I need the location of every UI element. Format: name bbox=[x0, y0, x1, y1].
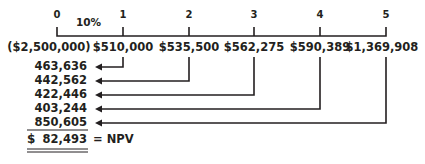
arrow-left-icon bbox=[95, 78, 102, 85]
period-label-5: 5 bbox=[383, 9, 390, 20]
present-value-4: 403,244 bbox=[35, 101, 87, 115]
arrow-left-icon bbox=[95, 106, 102, 113]
arrowheads bbox=[95, 64, 102, 127]
cash-flow-1: $510,000 bbox=[93, 40, 153, 54]
present-value-5: 850,605 bbox=[35, 115, 87, 129]
arrow-left-icon bbox=[95, 120, 102, 127]
cash-flow-5: $1,369,908 bbox=[346, 40, 419, 54]
npv-label: = NPV bbox=[93, 132, 134, 146]
discount-line-5 bbox=[100, 57, 386, 123]
period-label-0: 0 bbox=[54, 9, 61, 20]
timeline-axis bbox=[57, 27, 386, 36]
period-label-2: 2 bbox=[186, 9, 193, 20]
npv-value: 82,493 bbox=[43, 132, 87, 146]
discount-line-1 bbox=[100, 57, 123, 67]
cash-flow-2: $535,500 bbox=[159, 40, 219, 54]
discount-line-2 bbox=[100, 57, 189, 81]
npv-currency-symbol: $ bbox=[27, 132, 35, 146]
arrow-left-icon bbox=[95, 92, 102, 99]
present-value-2: 442,562 bbox=[35, 73, 87, 87]
period-label-3: 3 bbox=[251, 9, 258, 20]
present-value-1: 463,636 bbox=[35, 59, 87, 73]
discount-line-4 bbox=[100, 57, 320, 109]
period-label-1: 1 bbox=[120, 9, 127, 20]
arrow-left-icon bbox=[95, 64, 102, 71]
cash-flow-4: $590,389 bbox=[290, 40, 350, 54]
period-label-4: 4 bbox=[317, 9, 324, 20]
cash-flow-3: $562,275 bbox=[224, 40, 284, 54]
discount-rate-label: 10% bbox=[76, 16, 101, 28]
present-value-3: 422,446 bbox=[35, 87, 87, 101]
cash-flow-0: ($2,500,000) bbox=[7, 40, 90, 54]
